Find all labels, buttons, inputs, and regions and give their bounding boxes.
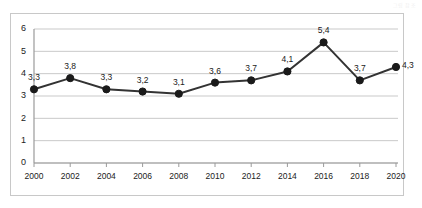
data-point-marker [30, 86, 37, 93]
x-tick-label: 2002 [61, 171, 80, 181]
line-chart-plot: 0123456 20002002200420062008201020122014… [0, 0, 422, 208]
x-axis-tick-labels: 2000200220042006200820102012201420162018… [25, 171, 406, 181]
data-point-label: 3,3 [28, 72, 40, 82]
y-tick-label: 1 [21, 135, 26, 145]
data-point-label: 3,3 [100, 72, 112, 82]
x-tick-label: 2014 [278, 171, 297, 181]
gridlines [34, 29, 398, 163]
data-point-label: 3,2 [137, 75, 149, 85]
y-tick-label: 2 [21, 113, 26, 123]
chart-figure: 그림 참조 0123456 20002002200420062008201020… [0, 0, 422, 208]
y-tick-label: 0 [21, 157, 26, 167]
x-tick-label: 2018 [350, 171, 369, 181]
data-point-label: 3,7 [245, 63, 257, 73]
data-point-marker [320, 39, 327, 46]
x-tick-label: 2006 [133, 171, 152, 181]
data-point-marker [67, 75, 74, 82]
data-point-marker [356, 77, 363, 84]
data-point-label: 4,3 [402, 60, 414, 70]
x-tick-label: 2020 [387, 171, 406, 181]
data-point-marker [284, 68, 291, 75]
data-point-marker [392, 63, 399, 70]
x-tick-label: 2016 [314, 171, 333, 181]
data-point-marker [211, 79, 218, 86]
data-point-label: 3,6 [209, 66, 221, 76]
data-point-marker [175, 90, 182, 97]
data-point-label: 3,7 [354, 63, 366, 73]
data-point-label: 3,1 [173, 77, 185, 87]
x-tick-label: 2010 [206, 171, 225, 181]
data-point-marker [248, 77, 255, 84]
y-tick-label: 3 [21, 90, 26, 100]
y-axis-tick-labels: 0123456 [21, 23, 26, 167]
data-point-label: 4,1 [281, 54, 293, 64]
x-tick-marks [34, 163, 396, 167]
data-point-label: 3,8 [64, 61, 76, 71]
x-tick-label: 2000 [25, 171, 44, 181]
x-tick-label: 2012 [242, 171, 261, 181]
x-tick-label: 2008 [169, 171, 188, 181]
y-tick-label: 5 [21, 46, 26, 56]
data-point-marker [103, 86, 110, 93]
y-tick-label: 6 [21, 23, 26, 33]
data-point-marker [139, 88, 146, 95]
x-tick-label: 2004 [97, 171, 116, 181]
y-tick-label: 4 [21, 68, 26, 78]
data-point-label: 5,4 [318, 25, 330, 35]
